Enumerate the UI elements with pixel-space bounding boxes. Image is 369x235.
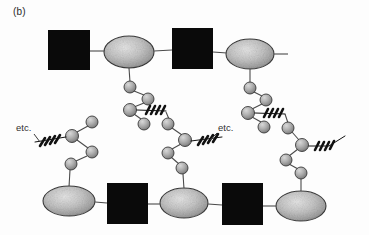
- shaded-gray-sphere: [66, 130, 79, 143]
- bond-group-chain-a: [129, 68, 184, 189]
- shaded-gray-sphere: [258, 121, 270, 133]
- bond-sp-c2-sp-c3: [252, 104, 262, 109]
- shaded-gray-ellipse: [276, 191, 326, 221]
- shaded-gray-sphere: [86, 146, 98, 158]
- shaded-gray-sphere: [280, 154, 292, 166]
- bond-el-b1-sq-b1: [95, 202, 107, 203]
- network-diagram-canvas: etc. etc.: [0, 0, 369, 235]
- bond-sp-b2-sp-b3: [77, 140, 88, 148]
- etc-label-text: etc.: [218, 122, 233, 133]
- bond-sq-t2-el-t2: [213, 52, 227, 53]
- etc-leader-line: [34, 134, 40, 142]
- shaded-gray-sphere: [295, 167, 307, 179]
- shaded-gray-sphere: [142, 93, 154, 105]
- bond-sp-c6-sp-c7: [289, 149, 298, 156]
- filled-black-square: [48, 30, 90, 70]
- shaded-gray-sphere: [162, 118, 174, 130]
- shaded-gray-ellipse: [43, 186, 95, 216]
- shaded-gray-sphere: [244, 82, 256, 94]
- bond-sp-a6-sp-a7: [172, 144, 181, 149]
- shaded-gray-sphere: [86, 116, 98, 128]
- bond-el-t1-sq-t2: [154, 50, 172, 51]
- bond-sp-a7-sp-a8: [171, 157, 179, 164]
- shaded-gray-sphere: [162, 147, 174, 159]
- shaded-gray-ellipse: [160, 188, 208, 218]
- hatched-coil-continuation: [255, 109, 285, 117]
- shaded-gray-sphere: [124, 104, 137, 117]
- shaded-gray-sphere: [179, 134, 192, 147]
- bond-sp-c1-sp-c2: [254, 92, 262, 96]
- annotation-etc-left: etc.: [16, 122, 40, 142]
- bond-sp-c5-sp-c6: [292, 132, 299, 140]
- bond-el-t1-sp-a1: [129, 68, 130, 82]
- shaded-gray-ellipse: [226, 39, 274, 69]
- shaded-gray-sphere: [282, 122, 294, 134]
- hatched-coil-continuation: [309, 136, 345, 150]
- shaded-gray-sphere: [242, 107, 255, 120]
- bond-sp-c3-sp-c4: [252, 117, 261, 122]
- shaded-gray-sphere: [138, 118, 150, 130]
- bond-sp-a8-el-b2: [183, 174, 184, 189]
- shaded-gray-sphere: [65, 158, 77, 170]
- shaded-gray-sphere: [296, 139, 309, 152]
- filled-black-square: [172, 28, 213, 69]
- shaded-gray-sphere: [260, 94, 272, 106]
- shaded-gray-ellipse: [104, 36, 154, 68]
- bond-sp-a5-sp-a6: [172, 128, 182, 135]
- sphere-group: [65, 81, 309, 179]
- hatched-coil-continuation: [137, 106, 166, 114]
- bond-sp-a1-sp-a2: [134, 91, 144, 95]
- figure-panel-b: (b): [0, 0, 369, 235]
- shaded-gray-sphere: [124, 81, 136, 93]
- filled-black-square: [222, 183, 263, 225]
- hatched-coil-continuation: [191, 134, 222, 145]
- filled-black-square: [107, 183, 148, 224]
- bond-sp-b1-sp-b2: [77, 126, 88, 132]
- etc-label-text: etc.: [16, 122, 31, 133]
- hatched-coil-continuation: [35, 135, 66, 146]
- bond-sp-b4-el-b1: [69, 170, 70, 187]
- shaded-gray-sphere: [176, 162, 188, 174]
- bond-el-b2-sq-b2: [208, 204, 222, 205]
- bond-sp-b3-sp-b4: [76, 156, 87, 161]
